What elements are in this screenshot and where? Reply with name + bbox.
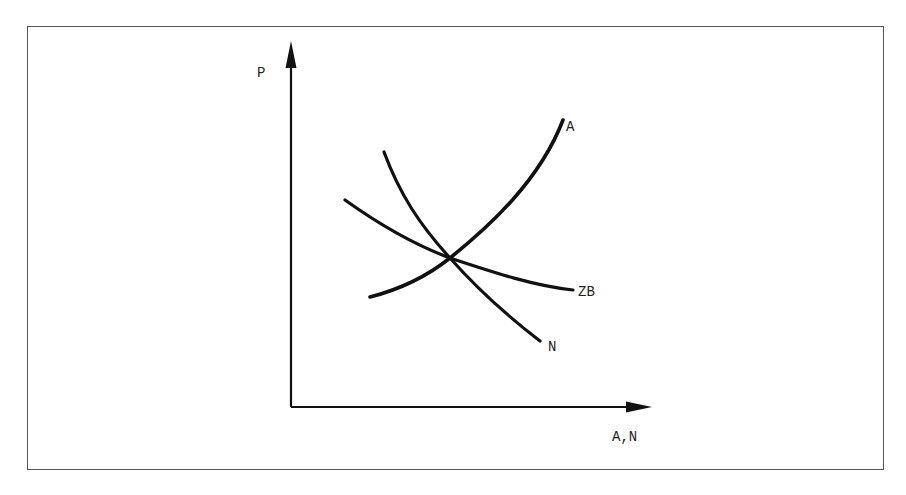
x-axis-arrow-icon <box>626 402 652 413</box>
y-axis <box>286 41 297 407</box>
diagram-canvas <box>0 0 906 495</box>
curve-zb <box>345 200 573 290</box>
y-axis-label: P <box>257 66 265 80</box>
curve-zb-label: ZB <box>578 285 595 299</box>
curve-n-label: N <box>548 340 556 354</box>
y-axis-arrow-icon <box>286 41 297 68</box>
x-axis-label: A,N <box>612 430 637 444</box>
curve-a <box>370 120 563 297</box>
curve-a-label: A <box>566 120 574 134</box>
x-axis <box>291 402 652 413</box>
